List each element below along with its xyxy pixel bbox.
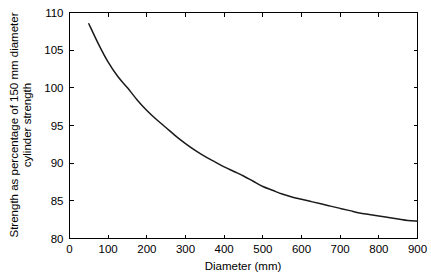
y-tick-label-105: 105 [44, 44, 63, 56]
strength-vs-diameter-chart: 0100200300400500600700800900 80859095100… [0, 0, 431, 275]
y-axis-title-line2: cylinder strength [21, 83, 33, 167]
chart-figure: 0100200300400500600700800900 80859095100… [0, 0, 431, 275]
strength-curve [89, 24, 418, 221]
y-axis-ticks [70, 13, 418, 239]
y-tick-label-90: 90 [51, 157, 64, 169]
y-axis-title-line1: Strength as percentage of 150 mm diamete… [8, 12, 20, 237]
x-tick-label-900: 900 [408, 243, 427, 255]
x-tick-label-0: 0 [66, 243, 72, 255]
x-axis-tick-labels: 0100200300400500600700800900 [66, 243, 427, 255]
x-tick-label-400: 400 [215, 243, 234, 255]
x-tick-label-600: 600 [292, 243, 311, 255]
x-axis-ticks [70, 13, 418, 239]
x-tick-label-200: 200 [137, 243, 156, 255]
y-tick-label-110: 110 [45, 7, 63, 19]
x-tick-label-300: 300 [176, 243, 195, 255]
y-tick-label-85: 85 [51, 195, 64, 207]
y-tick-label-80: 80 [51, 233, 64, 245]
x-tick-label-800: 800 [369, 243, 388, 255]
x-tick-label-500: 500 [253, 243, 272, 255]
x-axis-title: Diameter (mm) [205, 260, 282, 272]
x-tick-label-100: 100 [99, 243, 118, 255]
y-tick-label-100: 100 [44, 82, 63, 94]
y-tick-label-95: 95 [51, 120, 64, 132]
x-tick-label-700: 700 [331, 243, 350, 255]
y-axis-tick-labels: 80859095100105110 [44, 7, 63, 245]
plot-frame [70, 13, 418, 239]
